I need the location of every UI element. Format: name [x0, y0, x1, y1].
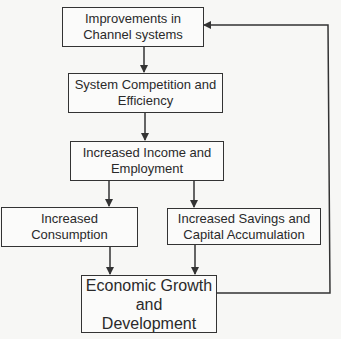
node-increased-income-and-employment: Increased Income and Employment [70, 141, 224, 181]
node-label-line: Efficiency [118, 93, 173, 109]
node-label-line: Consumption [31, 227, 108, 243]
node-label-line: and [136, 295, 163, 314]
node-increased-consumption: Increased Consumption [1, 207, 138, 247]
node-label-line: Increased [41, 211, 98, 227]
node-label-line: Development [102, 314, 196, 333]
node-label-line: Increased Income and [83, 145, 212, 161]
node-label-line: Increased Savings and [178, 211, 310, 227]
node-system-competition-and-efficiency: System Competition and Efficiency [68, 73, 223, 113]
node-label-line: Employment [111, 161, 183, 177]
node-increased-savings-and-capital-accumulation: Increased Savings and Capital Accumulati… [167, 208, 321, 245]
node-improvements-in-channel-systems: Improvements in Channel systems [62, 7, 204, 47]
node-economic-growth-and-development: Economic Growth and Development [81, 275, 217, 333]
node-label-line: Channel systems [83, 27, 183, 43]
node-label-line: Economic Growth [86, 276, 212, 295]
node-label-line: System Competition and [75, 77, 217, 93]
node-label-line: Improvements in [85, 11, 181, 27]
node-label-line: Capital Accumulation [183, 227, 304, 243]
